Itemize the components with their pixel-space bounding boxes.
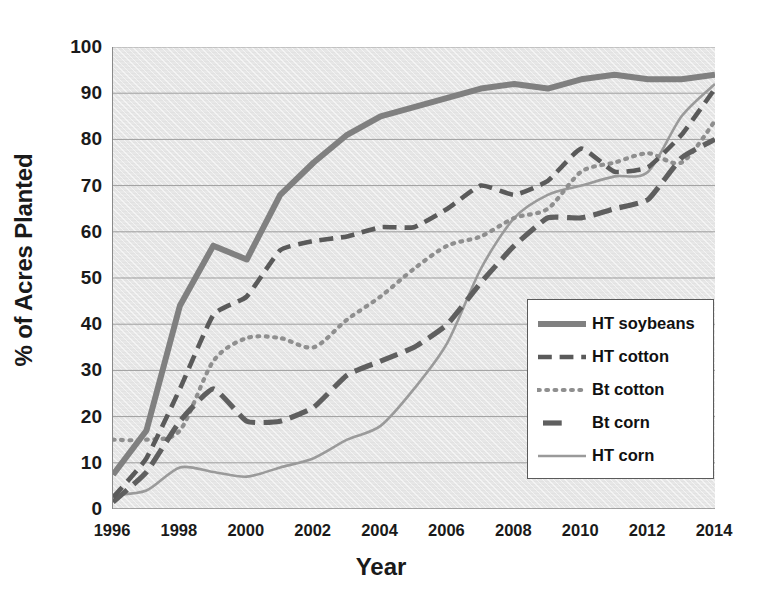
y-axis-tick: 80 — [40, 128, 102, 150]
x-axis-tick: 2006 — [428, 521, 465, 540]
legend-item-ht-corn[interactable]: HT corn — [528, 439, 713, 472]
legend-swatch-icon — [537, 317, 587, 331]
y-axis-tick-labels: 1009080706050403020100 — [40, 0, 102, 520]
y-axis-tick: 30 — [40, 359, 102, 381]
y-axis-tick: 40 — [40, 313, 102, 335]
x-axis-tick: 2004 — [361, 521, 398, 540]
x-axis-tick: 2002 — [294, 521, 331, 540]
y-axis-tick: 90 — [40, 82, 102, 104]
x-axis-tick: 2012 — [629, 521, 666, 540]
legend-swatch-icon — [537, 350, 587, 364]
x-axis-tick: 1998 — [161, 521, 198, 540]
legend-item-ht-soybeans[interactable]: HT soybeans — [528, 307, 713, 340]
y-axis-tick: 100 — [40, 36, 102, 58]
x-axis-tick: 2014 — [696, 521, 733, 540]
y-axis-tick: 50 — [40, 267, 102, 289]
y-axis-label: % of Acres Planted — [10, 154, 38, 367]
chart-legend: HT soybeansHT cottonBt cottonBt cornHT c… — [527, 299, 714, 479]
y-axis-tick: 70 — [40, 175, 102, 197]
x-axis-label: Year — [0, 553, 762, 581]
legend-label: HT corn — [592, 446, 654, 465]
x-axis-tick: 2008 — [495, 521, 532, 540]
legend-swatch-icon — [537, 449, 587, 463]
x-axis-tick: 2010 — [562, 521, 599, 540]
legend-swatch-icon — [537, 416, 587, 430]
y-axis-tick: 60 — [40, 221, 102, 243]
legend-label: Bt cotton — [592, 380, 664, 399]
legend-swatch-icon — [537, 383, 587, 397]
x-axis-tick-labels: 1996199820002002200420062008201020122014 — [0, 521, 762, 551]
y-axis-tick: 20 — [40, 406, 102, 428]
x-axis-tick: 1996 — [94, 521, 131, 540]
legend-label: HT cotton — [592, 347, 669, 366]
x-axis-tick: 2000 — [227, 521, 264, 540]
y-axis-tick: 0 — [40, 498, 102, 520]
legend-item-bt-corn[interactable]: Bt corn — [528, 406, 713, 439]
y-axis-tick: 10 — [40, 452, 102, 474]
chart-container: % of Acres Planted 100908070605040302010… — [0, 0, 762, 608]
legend-item-bt-cotton[interactable]: Bt cotton — [528, 373, 713, 406]
legend-item-ht-cotton[interactable]: HT cotton — [528, 340, 713, 373]
legend-label: HT soybeans — [592, 314, 695, 333]
legend-label: Bt corn — [592, 413, 650, 432]
